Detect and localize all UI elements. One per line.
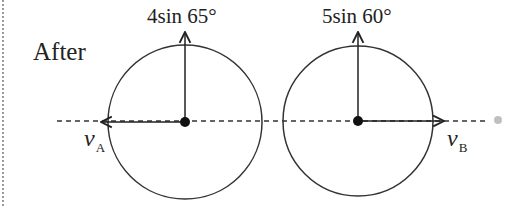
velocity-label-b: vB: [447, 125, 466, 152]
gray-dot: [494, 116, 502, 124]
center-dot-b: [353, 116, 363, 126]
vertical-component-label-b: 5sin 60°: [322, 4, 392, 29]
velocity-subscript-b: B: [459, 140, 468, 155]
velocity-subscript-a: A: [96, 140, 105, 155]
velocity-label-a: vA: [84, 125, 104, 152]
velocity-symbol-b: v: [447, 125, 458, 151]
collision-diagram: [0, 0, 511, 206]
state-label: After: [33, 38, 86, 66]
vertical-component-label-a: 4sin 65°: [147, 4, 217, 29]
center-dot-a: [180, 117, 190, 127]
velocity-symbol-a: v: [84, 125, 95, 151]
